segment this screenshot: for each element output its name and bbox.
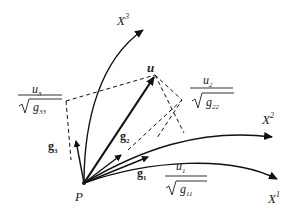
base-label-g2: g2 bbox=[120, 129, 130, 145]
axis-label-x2: X2 bbox=[261, 111, 274, 127]
base-vector-g2 bbox=[84, 155, 121, 183]
svg-text:g11: g11 bbox=[180, 182, 192, 198]
base-label-g1: g1 bbox=[137, 166, 147, 182]
svg-text:u3: u3 bbox=[32, 82, 42, 98]
projection-dashed-1 bbox=[155, 75, 184, 133]
base-label-g3: g3 bbox=[48, 139, 58, 155]
axis-label-x3: X3 bbox=[116, 12, 129, 28]
vector-u-label: u bbox=[147, 60, 154, 75]
component-u2: u2 g22 bbox=[190, 73, 234, 111]
origin-label: P bbox=[74, 189, 83, 204]
projection-dashed-g2 bbox=[128, 100, 182, 150]
projection-dashed-2 bbox=[155, 75, 182, 138]
svg-text:g33: g33 bbox=[33, 100, 47, 116]
vector-diagram: P u X3 X2 X1 g3 g2 g1 u3 g33 u2 g22 u1 g… bbox=[0, 0, 301, 215]
svg-text:u1: u1 bbox=[176, 159, 186, 175]
svg-text:g22: g22 bbox=[206, 95, 220, 111]
axis-label-x1: X1 bbox=[267, 190, 280, 206]
projection-dashed-3b bbox=[66, 101, 71, 160]
component-u3: u3 g33 bbox=[18, 82, 62, 116]
base-vector-g3 bbox=[76, 141, 84, 183]
origin-point bbox=[82, 181, 86, 185]
svg-text:u2: u2 bbox=[203, 73, 213, 89]
